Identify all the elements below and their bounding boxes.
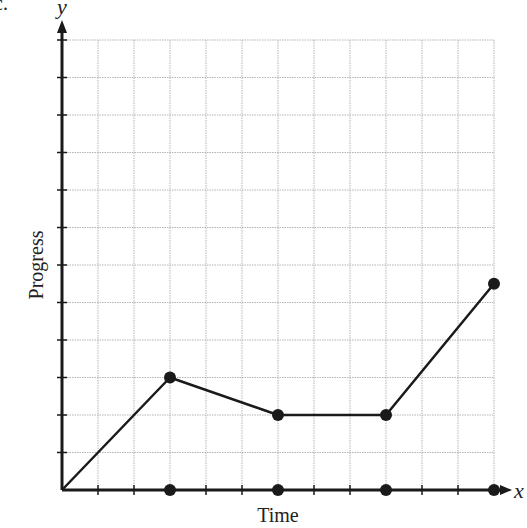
- data-point-marker: [488, 278, 500, 290]
- data-point-marker: [164, 372, 176, 384]
- y-axis-arrow-icon: [57, 20, 67, 33]
- y-axis-symbol: y: [55, 0, 67, 19]
- x-axis-dot-marker: [380, 484, 392, 496]
- x-axis-arrow-icon: [500, 485, 512, 495]
- x-axis-symbol: x: [513, 478, 524, 503]
- data-point-marker: [380, 409, 392, 421]
- series-line: [62, 284, 494, 490]
- y-axis-label: Progress: [25, 230, 48, 299]
- corner-fragment-text: c.: [0, 0, 8, 14]
- data-series: [62, 278, 500, 490]
- x-axis-label: Time: [257, 504, 299, 526]
- x-axis-dot-marker: [488, 484, 500, 496]
- x-axis-dot-marker: [164, 484, 176, 496]
- data-point-marker: [272, 409, 284, 421]
- axis-ticks: [57, 40, 458, 495]
- x-axis-dot-marker: [272, 484, 284, 496]
- progress-time-chart: c. y x Time Progress: [0, 0, 527, 528]
